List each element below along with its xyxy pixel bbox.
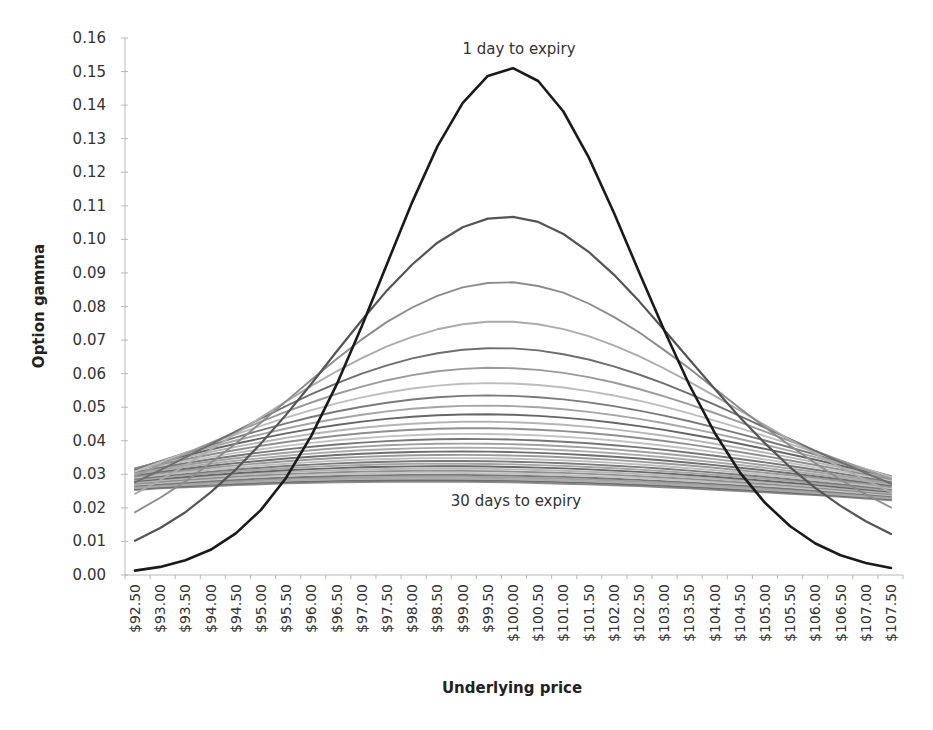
y-tick-label: 0.12 xyxy=(73,163,106,181)
x-tick-label: $104.00 xyxy=(707,584,723,642)
y-tick-label: 0.13 xyxy=(73,130,106,148)
x-tick-label: $107.00 xyxy=(858,584,874,642)
x-tick-label: $96.50 xyxy=(329,584,345,633)
x-tick-label: $101.50 xyxy=(581,584,597,642)
y-tick-label: 0.02 xyxy=(73,499,106,517)
x-tick-label: $93.50 xyxy=(177,584,193,633)
x-tick-label: $100.00 xyxy=(505,584,521,642)
y-tick-label: 0.07 xyxy=(73,331,106,349)
y-axis-ticks: 0.000.010.020.030.040.050.060.070.080.09… xyxy=(73,29,128,584)
y-tick-label: 0.15 xyxy=(73,63,106,81)
x-tick-label: $94.00 xyxy=(203,584,219,633)
x-tick-label: $105.00 xyxy=(757,584,773,642)
x-tick-label: $105.50 xyxy=(782,584,798,642)
y-axis-title: Option gamma xyxy=(30,244,48,368)
y-tick-label: 0.14 xyxy=(73,96,106,114)
x-tick-label: $103.50 xyxy=(681,584,697,642)
x-tick-label: $102.00 xyxy=(606,584,622,642)
gamma-curve-7-day xyxy=(135,383,891,477)
y-tick-label: 0.11 xyxy=(73,197,106,215)
y-tick-label: 0.00 xyxy=(73,566,106,584)
x-tick-label: $96.00 xyxy=(303,584,319,633)
x-tick-label: $102.50 xyxy=(631,584,647,642)
annotation-1-day: 1 day to expiry xyxy=(462,40,575,58)
y-tick-label: 0.03 xyxy=(73,465,106,483)
y-tick-label: 0.10 xyxy=(73,230,106,248)
x-tick-label: $93.00 xyxy=(152,584,168,633)
x-axis-ticks: $92.50$93.00$93.50$94.00$94.50$95.00$95.… xyxy=(125,575,903,642)
y-tick-label: 0.05 xyxy=(73,398,106,416)
y-tick-label: 0.16 xyxy=(73,29,106,47)
x-tick-label: $99.00 xyxy=(455,584,471,633)
x-tick-label: $95.50 xyxy=(278,584,294,633)
x-tick-label: $97.50 xyxy=(379,584,395,633)
x-tick-label: $103.00 xyxy=(656,584,672,642)
y-tick-label: 0.01 xyxy=(73,532,106,550)
x-tick-label: $100.50 xyxy=(530,584,546,642)
x-tick-label: $98.50 xyxy=(429,584,445,633)
x-tick-label: $106.50 xyxy=(833,584,849,642)
x-axis-title: Underlying price xyxy=(442,679,582,697)
x-tick-label: $95.00 xyxy=(253,584,269,633)
x-tick-label: $106.00 xyxy=(807,584,823,642)
annotation-30-days: 30 days to expiry xyxy=(451,492,582,510)
x-tick-label: $104.50 xyxy=(732,584,748,642)
y-tick-label: 0.09 xyxy=(73,264,106,282)
y-tick-label: 0.08 xyxy=(73,298,106,316)
gamma-chart: 0.000.010.020.030.040.050.060.070.080.09… xyxy=(0,0,933,730)
y-tick-label: 0.06 xyxy=(73,365,106,383)
x-tick-label: $97.00 xyxy=(354,584,370,633)
x-tick-label: $98.00 xyxy=(404,584,420,633)
x-tick-label: $92.50 xyxy=(127,584,143,633)
x-tick-label: $101.00 xyxy=(555,584,571,642)
x-tick-label: $107.50 xyxy=(883,584,899,642)
y-tick-label: 0.04 xyxy=(73,432,106,450)
x-tick-label: $99.50 xyxy=(480,584,496,633)
x-tick-label: $94.50 xyxy=(228,584,244,633)
